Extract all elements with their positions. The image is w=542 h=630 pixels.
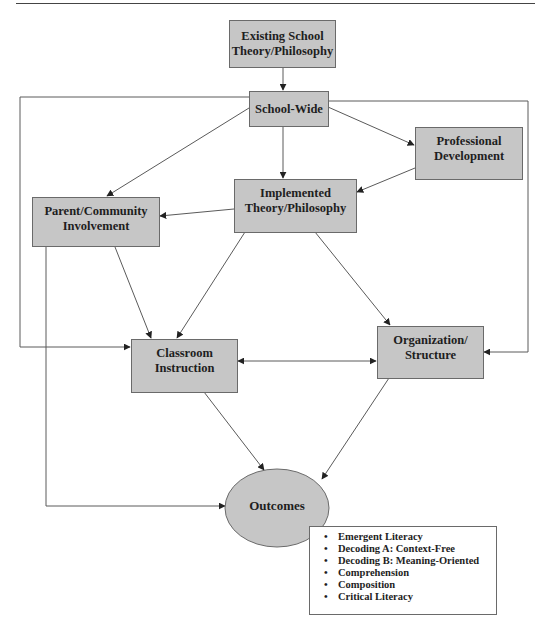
node-organization-structure: Organization/ Structure <box>377 326 484 379</box>
outcome-label: Emergent Literacy <box>338 531 423 542</box>
outcomes-list-item: •Decoding B: Meaning-Oriented <box>324 555 496 567</box>
outcomes-list: •Emergent Literacy •Decoding A: Context-… <box>324 531 496 603</box>
node-label: Theory/Philosophy <box>245 201 346 216</box>
outcome-label: Decoding A: Context-Free <box>338 543 455 554</box>
node-outcomes-label: Outcomes <box>236 498 318 514</box>
node-school-wide: School-Wide <box>249 91 329 127</box>
node-label: Classroom <box>155 346 215 361</box>
node-label: Development <box>434 149 504 164</box>
node-label: Involvement <box>44 219 147 234</box>
node-label: Organization/ <box>393 333 467 348</box>
node-classroom-instruction: Classroom Instruction <box>131 339 238 393</box>
outcomes-list-item: •Critical Literacy <box>324 591 496 603</box>
outcomes-list-item: •Comprehension <box>324 567 496 579</box>
node-label: Instruction <box>155 361 215 376</box>
node-label: School-Wide <box>255 102 323 117</box>
bullet-icon: • <box>324 543 328 555</box>
node-label: Parent/Community <box>44 204 147 219</box>
outcomes-list-item: •Emergent Literacy <box>324 531 496 543</box>
node-implemented-theory: Implemented Theory/Philosophy <box>234 179 357 233</box>
node-label: Implemented <box>245 186 346 201</box>
outcomes-list-box: •Emergent Literacy •Decoding A: Context-… <box>309 526 497 615</box>
node-parent-community: Parent/Community Involvement <box>32 197 160 247</box>
node-label: Structure <box>393 348 467 363</box>
bullet-icon: • <box>324 579 328 591</box>
bullet-icon: • <box>324 555 328 567</box>
bullet-icon: • <box>324 591 328 603</box>
node-label: Theory/Philosophy <box>232 44 333 59</box>
node-label: Professional <box>434 134 504 149</box>
node-existing-school-theory: Existing School Theory/Philosophy <box>229 20 336 68</box>
outcome-label: Decoding B: Meaning-Oriented <box>338 555 479 566</box>
outcome-label: Comprehension <box>338 567 409 578</box>
node-label: Existing School <box>232 29 333 44</box>
node-professional-development: Professional Development <box>415 127 523 180</box>
outcome-label: Critical Literacy <box>338 591 413 602</box>
outcomes-list-item: •Composition <box>324 579 496 591</box>
outcomes-list-item: •Decoding A: Context-Free <box>324 543 496 555</box>
bullet-icon: • <box>324 531 328 543</box>
bullet-icon: • <box>324 567 328 579</box>
outcome-label: Composition <box>338 579 395 590</box>
